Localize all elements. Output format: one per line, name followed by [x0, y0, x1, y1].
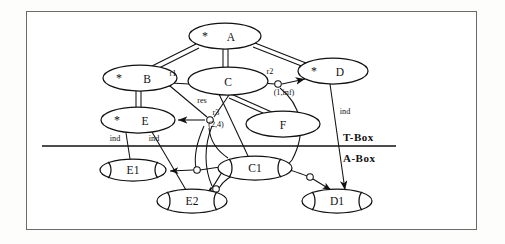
abox-label: A-Box: [343, 152, 375, 164]
concept-node-A[interactable]: * A: [189, 23, 261, 49]
cardinality-label-r2: (1,inf): [274, 88, 295, 97]
concept-label-A: A: [227, 31, 236, 43]
individual-label-C1: C1: [248, 162, 262, 174]
concept-label-D: D: [336, 66, 344, 78]
concept-label-B: B: [143, 73, 151, 85]
role-junction-c1-e1: [194, 167, 201, 174]
isa-edge-c-a: [223, 49, 228, 67]
tbox-label: T-Box: [343, 131, 374, 143]
concept-node-D[interactable]: * D: [298, 58, 368, 84]
concept-marker-A: *: [202, 29, 208, 43]
isa-edge-d-a: [253, 43, 306, 67]
role-junction-r2: [275, 81, 282, 88]
role-junction-c1-d1: [307, 174, 314, 181]
individual-node-D1[interactable]: D1: [302, 189, 372, 213]
abox-role-c1-d1: [290, 170, 331, 190]
individual-node-E1[interactable]: E1: [100, 159, 166, 181]
individual-label-E2: E2: [186, 195, 199, 207]
individual-label-E1: E1: [127, 164, 140, 176]
role-label-r2: r2: [267, 67, 274, 76]
concept-node-C[interactable]: C: [188, 67, 268, 95]
cardinality-label-r3: (2,4): [208, 120, 224, 129]
concept-node-E[interactable]: * E: [101, 107, 175, 133]
individual-node-E2[interactable]: E2: [157, 189, 227, 213]
concept-label-C: C: [224, 76, 232, 88]
individual-label-D1: D1: [330, 195, 344, 207]
isa-edge-e-b: [136, 91, 141, 107]
concept-marker-E: *: [114, 113, 120, 127]
ind-label-e1: ind: [110, 134, 120, 143]
abox-role-c1-e1: [170, 126, 220, 173]
role-label-r3: r3: [213, 108, 220, 117]
abox-curve-c1-left: [209, 128, 228, 158]
role-label-r1: r1: [170, 69, 177, 78]
ind-label-e2: ind: [149, 134, 159, 143]
isa-edge-b-a: [152, 44, 199, 70]
concept-node-F[interactable]: F: [246, 111, 320, 137]
concept-marker-D: *: [311, 64, 317, 78]
concept-node-B[interactable]: * B: [103, 65, 177, 91]
individual-node-C1[interactable]: C1: [218, 156, 292, 180]
concept-marker-B: *: [116, 71, 122, 85]
ind-label-d1: ind: [340, 107, 350, 116]
diagram-canvas: * A * B C * D * E F: [0, 0, 505, 244]
role-label-res: res: [197, 96, 207, 105]
concept-label-F: F: [280, 119, 286, 131]
diagram-page: * A * B C * D * E F: [0, 0, 505, 244]
concept-label-E: E: [141, 115, 148, 127]
